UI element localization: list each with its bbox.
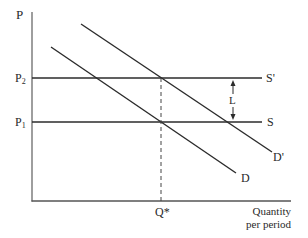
p1-sub: 1 bbox=[22, 121, 26, 130]
x-axis-title-line1: Quantity bbox=[246, 205, 291, 218]
p2-main: P bbox=[15, 71, 22, 85]
supply-demand-diagram bbox=[0, 0, 308, 238]
p2-label: P2 bbox=[15, 72, 26, 86]
p1-main: P bbox=[15, 115, 22, 129]
d-prime-label: D' bbox=[273, 151, 284, 163]
y-axis-label: P bbox=[16, 8, 23, 21]
s-prime-label: S' bbox=[266, 72, 275, 84]
q-star-label: Q* bbox=[155, 206, 170, 218]
p2-sub: 2 bbox=[22, 77, 26, 86]
l-label: L bbox=[229, 95, 236, 106]
s-label: S bbox=[267, 116, 274, 128]
d-label: D bbox=[241, 172, 250, 184]
x-axis-title: Quantity per period bbox=[246, 205, 291, 231]
p1-label: P1 bbox=[15, 116, 26, 130]
x-axis-title-line2: per period bbox=[246, 218, 291, 231]
